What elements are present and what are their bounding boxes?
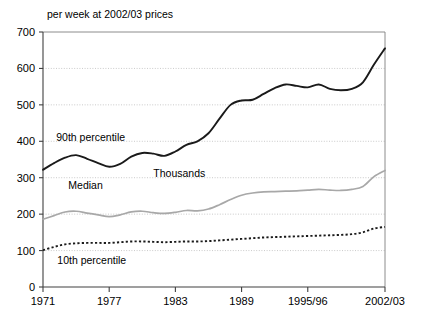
chart-container: 0100200300400500600700 19711977198319891…	[0, 0, 421, 321]
series-line-10th-percentile	[43, 227, 385, 250]
line-chart: 0100200300400500600700 19711977198319891…	[0, 0, 421, 321]
x-tick-label: 1983	[163, 295, 187, 307]
series-line-90th-percentile	[43, 48, 385, 169]
y-tick-label: 100	[17, 245, 35, 257]
y-tick-label: 200	[17, 208, 35, 220]
annotation-10th-percentile: 10th percentile	[57, 254, 126, 266]
x-tick-label: 1989	[229, 295, 253, 307]
chart-title: per week at 2002/03 prices	[47, 8, 173, 20]
y-axis-ticks: 0100200300400500600700	[17, 26, 43, 293]
annotation-90th-percentile: 90th percentile	[56, 131, 125, 143]
x-tick-label: 1971	[31, 295, 55, 307]
x-tick-label: 1977	[97, 295, 121, 307]
series-annotations: 90th percentileThousandsMedian10th perce…	[56, 131, 205, 266]
y-tick-label: 500	[17, 99, 35, 111]
y-tick-label: 700	[17, 26, 35, 38]
x-axis-ticks: 19711977198319891995/962002/03	[31, 287, 405, 307]
y-tick-label: 400	[17, 135, 35, 147]
gridlines	[43, 68, 385, 250]
y-tick-label: 0	[29, 281, 35, 293]
annotation-median: Median	[68, 179, 103, 191]
x-tick-label: 2002/03	[365, 295, 405, 307]
plot-frame	[43, 32, 385, 287]
annotation-thousands: Thousands	[153, 167, 205, 179]
y-tick-label: 300	[17, 172, 35, 184]
data-series	[43, 48, 385, 250]
x-tick-label: 1995/96	[288, 295, 328, 307]
y-tick-label: 600	[17, 62, 35, 74]
